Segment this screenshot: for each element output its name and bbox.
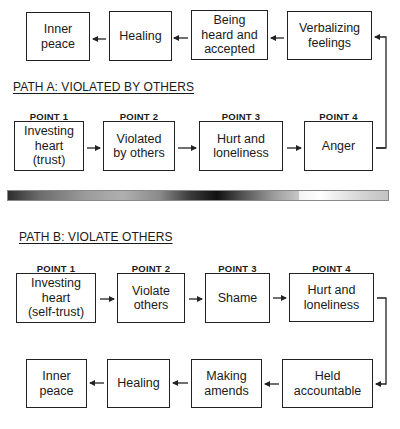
box-investing-heart-trust: Investing heart (trust) bbox=[14, 121, 84, 171]
path-b-heading: PATH B: VIOLATE OTHERS bbox=[19, 230, 173, 244]
box-violated-by-others: Violated by others bbox=[103, 121, 175, 171]
box-being-heard: Being heard and accepted bbox=[191, 10, 268, 60]
box-inner-peace-a: Inner peace bbox=[26, 12, 90, 61]
path-a-heading: PATH A: VIOLATED BY OTHERS bbox=[13, 80, 194, 94]
box-inner-peace-b: Inner peace bbox=[26, 359, 87, 408]
box-healing-a: Healing bbox=[109, 11, 172, 61]
box-shame: Shame bbox=[205, 273, 270, 323]
box-investing-heart-self-trust: Investing heart (self-trust) bbox=[16, 273, 96, 323]
box-hurt-loneliness-a: Hurt and loneliness bbox=[199, 121, 283, 171]
box-healing-b: Healing bbox=[107, 359, 170, 408]
box-held-accountable: Held accountable bbox=[282, 359, 373, 408]
box-making-amends: Making amends bbox=[191, 359, 262, 408]
gradient-divider-bar bbox=[7, 190, 389, 201]
box-verbalizing-feelings: Verbalizing feelings bbox=[287, 11, 372, 60]
box-anger: Anger bbox=[304, 121, 373, 171]
box-violate-others: Violate others bbox=[117, 273, 185, 323]
box-hurt-loneliness-b: Hurt and loneliness bbox=[289, 273, 374, 322]
